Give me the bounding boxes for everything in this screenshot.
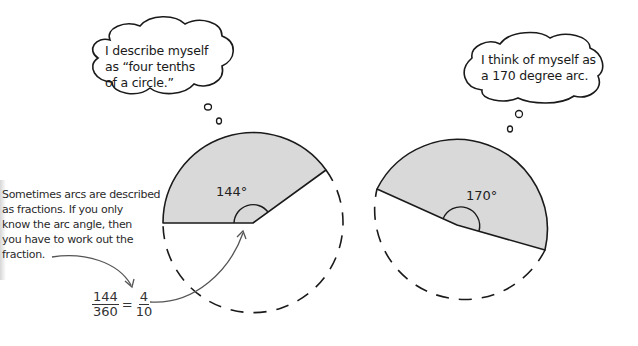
note-line: you have to work out the <box>2 232 160 247</box>
angle-label-144: 144° <box>216 184 247 199</box>
equals-sign: = <box>122 297 133 312</box>
note-line: fraction. <box>2 247 160 262</box>
fraction-equation: 144 360 = 4 10 <box>92 290 152 319</box>
fraction-lhs: 144 360 <box>92 290 119 319</box>
bubble-right-line: I think of myself as <box>481 52 596 68</box>
note-line: Sometimes arcs are described <box>2 187 160 202</box>
note-line: as fractions. If you only <box>2 202 160 217</box>
fraction-lhs-denominator: 360 <box>93 305 118 319</box>
note-line: know the arc angle, then <box>2 217 160 232</box>
fraction-rhs: 4 10 <box>136 290 153 319</box>
fraction-rhs-denominator: 10 <box>136 305 153 319</box>
sector-170 <box>377 140 547 250</box>
thought-dot-right-2 <box>508 126 513 132</box>
bubble-right-line: a 170 degree arc. <box>481 68 596 84</box>
thought-dot-left-2 <box>217 118 222 124</box>
thought-dot-left-1 <box>205 104 212 110</box>
thought-dot-right-1 <box>516 111 523 118</box>
angle-label-170: 170° <box>466 188 497 203</box>
bubble-text-right: I think of myself as a 170 degree arc. <box>481 52 596 84</box>
bubble-left-line: of a circle.” <box>105 75 208 91</box>
annotation-note: Sometimes arcs are described as fraction… <box>2 187 160 262</box>
bubble-left-line: I describe myself <box>105 43 208 59</box>
bubble-text-left: I describe myself as “four tenths of a c… <box>105 43 208 91</box>
bubble-left-line: as “four tenths <box>105 59 208 75</box>
fraction-lhs-numerator: 144 <box>92 290 119 305</box>
fraction-rhs-numerator: 4 <box>139 290 149 305</box>
sector-144 <box>163 133 326 223</box>
